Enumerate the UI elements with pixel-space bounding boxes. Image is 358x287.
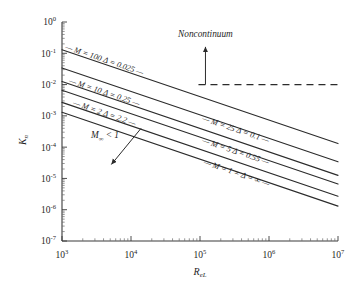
y-axis-tick-labels: 10010-110-210-310-410-510-610-7	[41, 15, 57, 246]
chart-figure: 10010-110-210-310-410-510-610-7 10310410…	[0, 0, 358, 287]
kn-vs-reynolds-chart: 10010-110-210-310-410-510-610-7 10310410…	[0, 0, 358, 287]
x-axis-title-text: ReL	[193, 266, 207, 278]
x-tick-label-1: 104	[125, 248, 139, 260]
x-tick-label-4: 107	[332, 248, 346, 260]
y-tick-label-6: 10-6	[41, 203, 57, 215]
x-axis-tick-labels: 103104105106107	[56, 248, 346, 260]
x-axis-title: ReL	[193, 266, 207, 278]
x-tick-label-0: 103	[56, 248, 70, 260]
y-tick-label-1: 10-1	[41, 47, 56, 59]
y-axis-title: Kn	[17, 134, 29, 146]
y-tick-label-0: 100	[43, 15, 57, 27]
curve-labels: — M = 100 Δ = 0.025 —— M = 25 Δ = 0.1 ——…	[63, 42, 271, 189]
x-tick-label-2: 105	[194, 248, 208, 260]
y-tick-label-2: 10-2	[41, 78, 56, 90]
x-tick-label-3: 106	[263, 248, 277, 260]
annotation-text-mach-subsonic: M∞ < 1	[90, 130, 119, 141]
y-tick-label-7: 10-7	[41, 234, 57, 246]
y-axis-title-text: Kn	[17, 134, 29, 146]
y-tick-label-5: 10-5	[41, 172, 57, 184]
curve-5	[62, 112, 338, 206]
y-tick-label-3: 10-3	[41, 109, 57, 121]
annotation-text-noncontinuum: Noncontinuum	[177, 29, 233, 39]
y-tick-label-4: 10-4	[41, 141, 57, 153]
data-curves	[62, 50, 338, 206]
